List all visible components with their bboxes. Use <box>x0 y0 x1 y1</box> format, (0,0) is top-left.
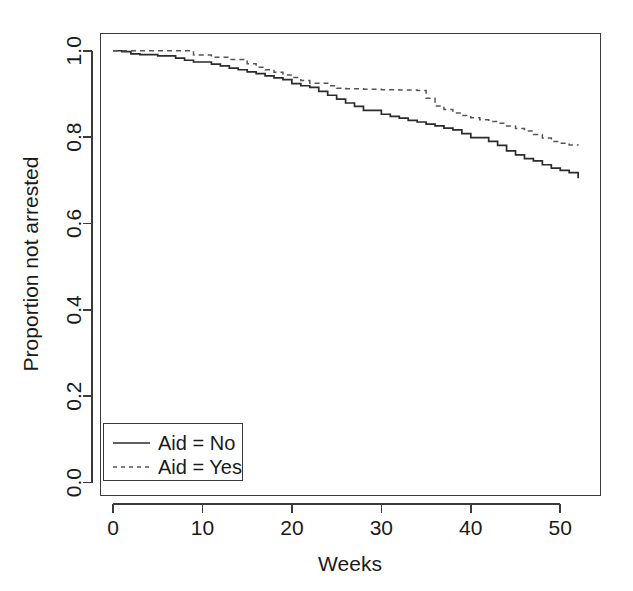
x-tick-label: 50 <box>549 516 572 539</box>
x-tick-label: 30 <box>370 516 393 539</box>
y-tick-label: 0.8 <box>63 123 86 152</box>
x-tick-label: 10 <box>191 516 214 539</box>
y-tick-label: 0.4 <box>63 295 86 325</box>
legend[interactable]: Aid = No Aid = Yes <box>104 424 243 481</box>
x-tick-label: 20 <box>280 516 303 539</box>
chart-background <box>0 0 633 591</box>
y-tick-label: 0.0 <box>63 468 86 497</box>
y-tick-label: 0.2 <box>63 382 86 411</box>
x-tick-label: 40 <box>459 516 482 539</box>
x-tick-label: 0 <box>107 516 119 539</box>
kaplan-meier-chart: 0.00.20.40.60.81.0 01020304050 Weeks Pro… <box>0 0 633 591</box>
legend-label-aid-no: Aid = No <box>158 432 235 454</box>
y-tick-label: 0.6 <box>63 209 86 238</box>
chart-figure: 0.00.20.40.60.81.0 01020304050 Weeks Pro… <box>0 0 633 591</box>
y-axis-title: Proportion not arrested <box>19 157 42 372</box>
x-axis-title: Weeks <box>318 552 382 575</box>
y-tick-label: 1.0 <box>63 36 86 65</box>
legend-label-aid-yes: Aid = Yes <box>158 456 242 478</box>
